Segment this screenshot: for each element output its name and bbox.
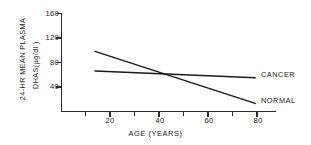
series-label-normal: NORMAL [261, 96, 296, 105]
chart-figure: 24-HR MEAN PLASMA DHAS(µg/dl ) 160 120 8… [0, 0, 311, 145]
series-label-cancer: CANCER [261, 70, 295, 79]
